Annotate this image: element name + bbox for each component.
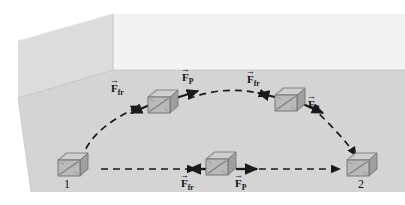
crate-at-point-1	[58, 153, 88, 176]
figure-canvas: →Ffr →FP →Ffr →FP →Ffr →FP 1 2	[0, 0, 405, 205]
back-wall	[113, 14, 405, 70]
friction-force-label-lower: →Ffr	[181, 178, 194, 192]
crate-on-straight-path	[206, 152, 236, 175]
crate-on-curve-right	[275, 88, 305, 111]
applied-force-label-upper-left: →FP	[182, 72, 193, 86]
end-point-label: 2	[358, 178, 364, 190]
crate-at-point-2	[347, 153, 377, 176]
crate-on-curve-left	[148, 90, 178, 113]
friction-force-label-upper-right: →Ffr	[247, 74, 260, 88]
applied-force-label-lower: →FP	[235, 178, 246, 192]
applied-force-label-upper-right: →FP	[308, 99, 319, 113]
physics-scene	[0, 0, 405, 205]
friction-force-label-upper-left: →Ffr	[111, 83, 124, 97]
start-point-label: 1	[64, 178, 70, 190]
